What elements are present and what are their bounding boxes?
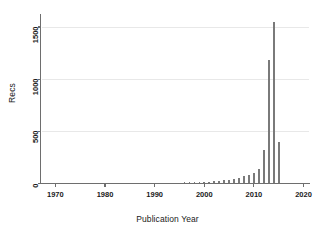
x-tick-label-1970: 1970	[47, 190, 64, 199]
x-tick-label-1980: 1980	[97, 190, 114, 199]
y-tick-label-1500: 1500	[30, 27, 39, 63]
x-tick-label-1990: 1990	[146, 190, 163, 199]
bar-group	[145, 22, 279, 184]
y-axis-title: Recs	[7, 71, 17, 115]
x-tick-label-2000: 2000	[196, 190, 213, 199]
chart-figure: 197019801990200020102020 050010001500 Pu…	[0, 0, 313, 228]
y-tick-label-1000: 1000	[30, 79, 39, 115]
x-axis-title: Publication Year	[0, 214, 313, 224]
x-tick-label-2020: 2020	[295, 190, 312, 199]
y-tick-label-500: 500	[30, 131, 39, 167]
x-tick-label-2010: 2010	[246, 190, 263, 199]
